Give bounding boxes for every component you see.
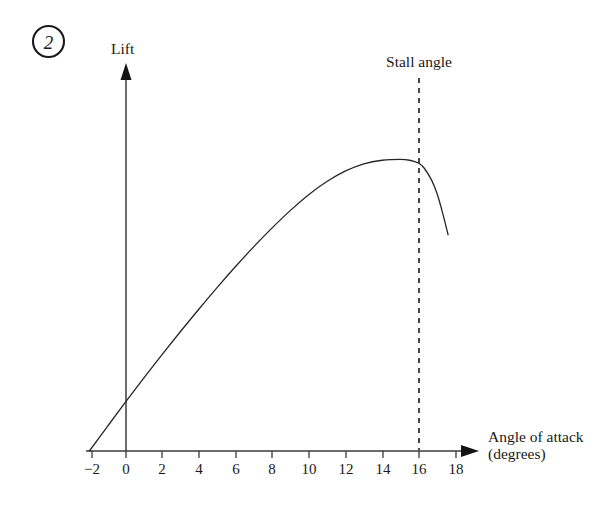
x-tick-label: −2 bbox=[84, 461, 100, 477]
stall-angle-annotation: Stall angle bbox=[386, 53, 452, 450]
x-tick-label: 12 bbox=[339, 461, 354, 477]
x-tick-label: 8 bbox=[268, 461, 276, 477]
x-tick-label: 14 bbox=[376, 461, 392, 477]
x-axis-ticks bbox=[92, 451, 456, 458]
y-axis-arrowhead-icon bbox=[121, 63, 132, 80]
x-axis-tick-labels: −2 0 2 4 6 8 10 12 14 16 18 bbox=[84, 461, 463, 477]
y-axis-label: Lift bbox=[111, 40, 135, 57]
x-tick-label: 4 bbox=[195, 461, 203, 477]
x-tick-label: 0 bbox=[122, 461, 130, 477]
x-tick-label: 2 bbox=[158, 461, 166, 477]
x-axis-label: Angle of attack bbox=[488, 428, 584, 445]
x-tick-label: 16 bbox=[412, 461, 428, 477]
lift-vs-angle-of-attack-chart: 2 Lift Angle of attack (degrees) bbox=[0, 0, 609, 507]
y-axis: Lift bbox=[111, 40, 135, 451]
figure-number-label: 2 bbox=[44, 32, 54, 53]
x-axis-label-units: (degrees) bbox=[488, 445, 546, 463]
stall-angle-label: Stall angle bbox=[386, 53, 452, 70]
figure-number-marker: 2 bbox=[33, 26, 64, 57]
x-axis-arrowhead-icon bbox=[461, 445, 479, 457]
figure-container: 2 Lift Angle of attack (degrees) bbox=[0, 0, 609, 507]
x-tick-label: 6 bbox=[232, 461, 240, 477]
x-axis: Angle of attack (degrees) bbox=[86, 428, 584, 463]
x-tick-label: 18 bbox=[449, 461, 464, 477]
lift-curve-line bbox=[89, 159, 448, 451]
x-tick-label: 10 bbox=[302, 461, 317, 477]
lift-curve-series bbox=[89, 159, 448, 451]
